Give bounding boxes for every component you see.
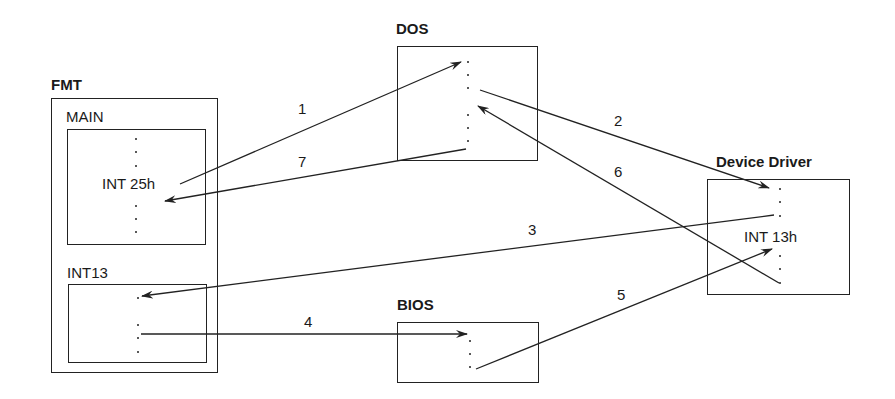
dot: [467, 87, 469, 89]
edge-label-1: 1: [298, 100, 306, 117]
edge-label-2: 2: [614, 112, 622, 129]
dot: [467, 114, 469, 116]
dot: [467, 61, 469, 63]
dos-box: [397, 46, 538, 161]
dot: [467, 127, 469, 129]
dot: [779, 201, 781, 203]
dot: [135, 165, 137, 167]
dot: [779, 268, 781, 270]
int13h-label: INT 13h: [744, 228, 797, 245]
edge-label-7: 7: [298, 153, 306, 170]
dot: [135, 218, 137, 220]
dos-title: DOS: [396, 20, 429, 37]
int25h-label: INT 25h: [102, 175, 155, 192]
dot: [137, 297, 139, 299]
edge-label-3: 3: [528, 221, 536, 238]
edge-label-6: 6: [614, 163, 622, 180]
dot: [135, 151, 137, 153]
dot: [779, 188, 781, 190]
dot: [137, 324, 139, 326]
dot: [779, 255, 781, 257]
dot: [779, 215, 781, 217]
dot: [137, 337, 139, 339]
device-driver-title: Device Driver: [716, 153, 812, 170]
arrow-3: [142, 215, 774, 296]
int13-label: INT13: [67, 264, 108, 281]
edge-label-5: 5: [617, 286, 625, 303]
bios-title: BIOS: [397, 296, 434, 313]
fmt-title: FMT: [51, 76, 82, 93]
dot: [137, 351, 139, 353]
dot: [469, 340, 471, 342]
main-label: MAIN: [66, 108, 104, 125]
dot: [135, 205, 137, 207]
dot: [467, 140, 469, 142]
dot: [467, 74, 469, 76]
bios-box: [397, 322, 539, 383]
edge-label-4: 4: [304, 313, 312, 330]
dot: [779, 282, 781, 284]
dot: [135, 138, 137, 140]
dot: [469, 366, 471, 368]
dot: [469, 353, 471, 355]
dot: [135, 231, 137, 233]
